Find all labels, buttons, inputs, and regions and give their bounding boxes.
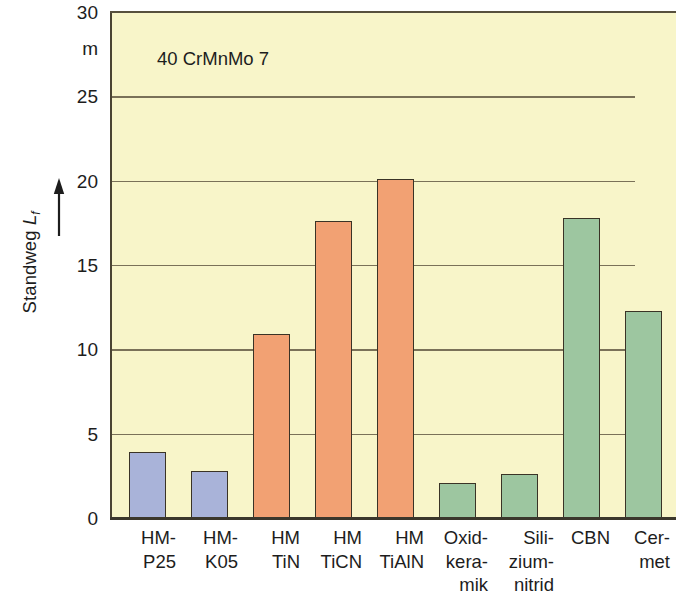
bar-hm-tin: [253, 334, 290, 518]
x-tick-label-hm-k05: HM- K05: [180, 526, 238, 573]
gridline-25: [112, 96, 635, 97]
x-label-line: Oxid-: [424, 526, 488, 550]
x-label-line: TiCN: [304, 550, 362, 574]
bar-hm-p25: [129, 452, 166, 518]
bar-hm-tialn: [377, 179, 414, 518]
y-axis-title-text: Standweg: [19, 230, 40, 313]
gridline-15: [112, 265, 635, 266]
gridline-5: [112, 434, 635, 435]
x-label-line: TiAlN: [362, 550, 424, 574]
bar-cbn: [563, 218, 600, 518]
x-tick-label-cermet: Cer- met: [612, 526, 670, 573]
x-label-line: HM-: [118, 526, 176, 550]
y-axis-unit-label: m: [40, 39, 98, 58]
y-tick-label-10: 10: [40, 340, 98, 359]
x-label-line: met: [612, 550, 670, 574]
x-label-line: HM-: [180, 526, 238, 550]
bar-hm-k05: [191, 471, 228, 518]
chart-title-annotation: 40 CrMnMo 7: [157, 48, 269, 70]
x-label-line: mik: [424, 573, 488, 597]
x-axis-line: [110, 517, 676, 520]
x-label-line: HM: [304, 526, 362, 550]
gridline-10: [112, 349, 635, 350]
x-label-line: TiN: [242, 550, 300, 574]
x-tick-label-oxidkeramik: Oxid- kera- mik: [424, 526, 488, 597]
x-label-line: HM: [362, 526, 424, 550]
y-tick-label-15: 15: [40, 256, 98, 275]
y-tick-label-5: 5: [40, 425, 98, 444]
bar-oxidkeramik: [439, 483, 476, 518]
x-label-line: zium-: [488, 550, 554, 574]
gridline-20: [112, 181, 635, 182]
x-label-line: nitrid: [488, 573, 554, 597]
x-tick-label-hm-tin: HM TiN: [242, 526, 300, 573]
x-tick-label-hm-tialn: HM TiAlN: [362, 526, 424, 573]
x-label-line: kera-: [424, 550, 488, 574]
x-tick-label-cbn: CBN: [552, 526, 610, 550]
plot-area: 40 CrMnMo 7: [110, 12, 676, 518]
x-label-line: P25: [118, 550, 176, 574]
x-label-line: Sili-: [488, 526, 554, 550]
bar-chart: Standweg Lf m 30 25 20 15 10 5 0 40 CrMn…: [0, 0, 676, 602]
bar-siliziumnitrid: [501, 474, 538, 518]
x-label-line: K05: [180, 550, 238, 574]
x-tick-label-hm-p25: HM- P25: [118, 526, 176, 573]
y-tick-label-30: 30: [40, 3, 98, 22]
x-label-line: Cer-: [612, 526, 670, 550]
x-tick-label-siliziumnitrid: Sili- zium- nitrid: [488, 526, 554, 597]
y-axis-title-symbol: Lf: [19, 211, 40, 230]
x-label-line: HM: [242, 526, 300, 550]
x-label-line: CBN: [552, 526, 610, 550]
plot-top-border: [110, 11, 676, 13]
x-tick-label-hm-ticn: HM TiCN: [304, 526, 362, 573]
y-tick-label-25: 25: [40, 87, 98, 106]
y-tick-label-20: 20: [40, 172, 98, 191]
y-tick-label-0: 0: [40, 509, 98, 528]
bar-hm-ticn: [315, 221, 352, 518]
bar-cermet: [625, 311, 662, 518]
